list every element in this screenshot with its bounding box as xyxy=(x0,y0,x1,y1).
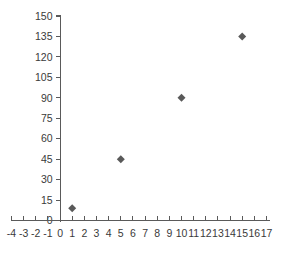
y-tick-label: 120 xyxy=(35,51,53,63)
y-tick-label: 150 xyxy=(35,10,53,22)
x-tick-label: 14 xyxy=(224,227,236,239)
x-tick-label: 16 xyxy=(249,227,261,239)
y-tick-label: 60 xyxy=(41,132,53,144)
x-tick-label: -4 xyxy=(7,227,16,239)
x-tick-label: -2 xyxy=(31,227,40,239)
x-tick-label: 11 xyxy=(188,227,199,239)
x-tick-label: 8 xyxy=(154,227,160,239)
x-tick-label: 13 xyxy=(212,227,224,239)
x-tick-label: 12 xyxy=(200,227,212,239)
y-tick-label: 105 xyxy=(35,71,53,83)
chart-canvas: 0153045607590105120135150 -4-3-2-1012345… xyxy=(0,0,281,265)
x-tick-label: 4 xyxy=(106,227,112,239)
y-tick-label: 75 xyxy=(41,112,53,124)
x-tick-label: -1 xyxy=(43,227,52,239)
y-axis-tick-labels: 0153045607590105120135150 xyxy=(35,10,53,227)
y-tick-label: 90 xyxy=(41,92,53,104)
x-tick-label: 1 xyxy=(69,227,75,239)
y-tick-label: 135 xyxy=(35,30,53,42)
y-axis-tick-marks xyxy=(56,16,61,221)
x-tick-label: 5 xyxy=(118,227,124,239)
x-tick-label: 0 xyxy=(57,227,63,239)
scatter-chart: 0153045607590105120135150 -4-3-2-1012345… xyxy=(0,0,281,265)
x-tick-label: 17 xyxy=(261,227,273,239)
data-point-markers xyxy=(68,32,246,212)
x-tick-label: 7 xyxy=(142,227,148,239)
data-point-marker xyxy=(178,94,186,102)
x-tick-label: 10 xyxy=(176,227,188,239)
data-point-marker xyxy=(117,155,125,163)
y-tick-label: 30 xyxy=(41,173,53,185)
x-tick-label: 3 xyxy=(94,227,100,239)
x-tick-label: 15 xyxy=(236,227,248,239)
x-tick-label: 6 xyxy=(130,227,136,239)
x-tick-label: -3 xyxy=(19,227,28,239)
x-axis-tick-labels: -4-3-2-101234567891011121314151617 xyxy=(7,227,273,239)
y-tick-label: 15 xyxy=(41,194,53,206)
data-point-marker xyxy=(238,32,246,40)
x-tick-label: 9 xyxy=(166,227,172,239)
x-tick-label: 2 xyxy=(81,227,87,239)
data-point-marker xyxy=(68,204,76,212)
y-tick-label: 45 xyxy=(41,153,53,165)
